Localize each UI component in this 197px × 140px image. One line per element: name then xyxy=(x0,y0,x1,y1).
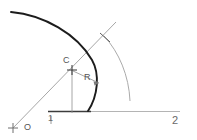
main-curve xyxy=(11,12,97,111)
radius-label: R xyxy=(84,73,91,82)
center-point-cross-icon xyxy=(67,65,77,75)
station-2-label: 2 xyxy=(172,115,178,126)
center-label: C xyxy=(63,56,70,65)
secondary-arc xyxy=(104,36,130,101)
diagram-canvas xyxy=(0,0,197,140)
arc-intersection-cross-icon xyxy=(100,33,110,42)
engineering-diagram: C R O 1 2 xyxy=(0,0,197,140)
origin-label: O xyxy=(24,123,31,132)
station-1-label: 1 xyxy=(48,114,53,123)
